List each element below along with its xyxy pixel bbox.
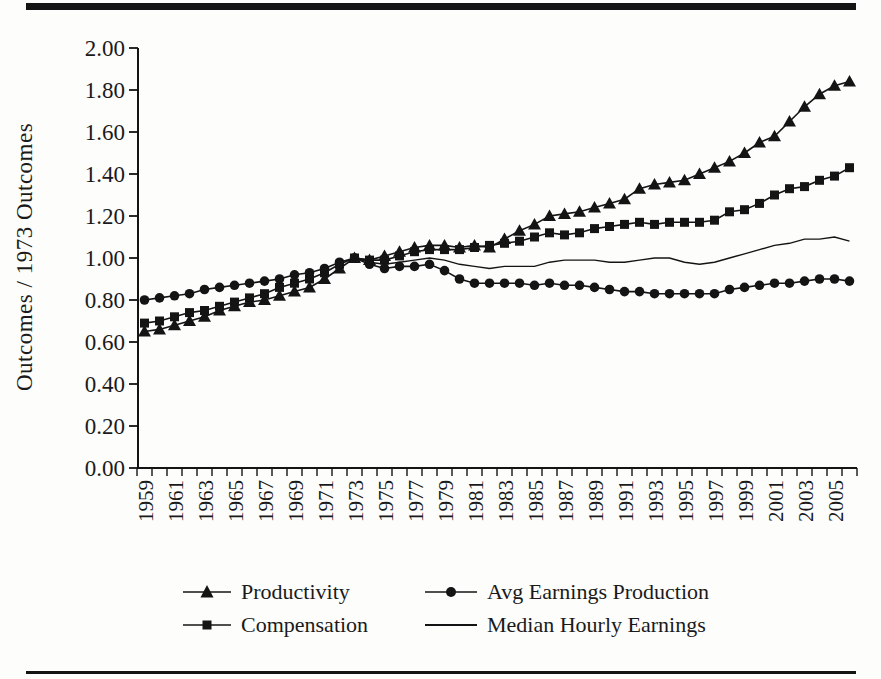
x-tick-label: 1971 [314,480,338,522]
line-marker-icon [425,617,477,633]
legend-label-productivity: Productivity [241,579,350,605]
y-tick-label: 1.80 [85,78,125,103]
y-tick-label: 0.00 [85,456,125,481]
y-tick-label: 0.20 [85,414,125,439]
legend-item-avg-earnings: Avg Earnings Production [425,579,709,605]
legend-item-median-hourly: Median Hourly Earnings [425,612,709,638]
y-tick-label: 0.60 [85,330,125,355]
legend-item-compensation: Compensation [183,612,425,638]
x-tick-label: 1997 [704,480,728,522]
x-tick-label: 1989 [584,480,608,522]
legend: Productivity Avg Earnings Production Com… [183,579,709,638]
legend-label-median-hourly: Median Hourly Earnings [487,612,706,638]
x-tick-label: 1983 [494,480,518,522]
x-tick-label: 1963 [194,480,218,522]
square-marker-icon [183,617,231,633]
y-tick-label: 1.40 [85,162,125,187]
y-tick-label: 1.60 [85,120,125,145]
x-tick-label: 1967 [254,480,278,522]
circle-marker-icon [425,584,477,600]
legend-item-productivity: Productivity [183,579,425,605]
figure-page: Outcomes / 1973 Outcomes 0.000.200.400.6… [0,0,881,679]
x-tick-label: 2005 [824,480,848,522]
y-tick-label: 0.80 [85,288,125,313]
legend-label-avg-earnings: Avg Earnings Production [487,579,709,605]
x-tick-label: 1987 [554,480,578,522]
x-tick-label: 1969 [284,480,308,522]
x-tick-label: 1959 [134,480,158,522]
y-tick-label: 0.40 [85,372,125,397]
x-tick-label: 1975 [374,480,398,522]
line-chart: 0.000.200.400.600.801.001.201.401.601.80… [0,0,881,572]
x-axis-ticks: 1959196119631965196719691971197319751977… [134,468,858,522]
x-tick-label: 1995 [674,480,698,522]
triangle-marker-icon [183,584,231,600]
y-tick-label: 1.20 [85,204,125,229]
y-tick-label: 1.00 [85,246,125,271]
y-axis-ticks: 0.000.200.400.600.801.001.201.401.601.80… [85,36,138,481]
x-tick-label: 1985 [524,480,548,522]
x-tick-label: 1965 [224,480,248,522]
bottom-rule [26,671,856,674]
y-tick-label: 2.00 [85,36,125,61]
x-tick-label: 1979 [434,480,458,522]
axes [138,48,857,468]
x-tick-label: 1991 [614,480,638,522]
x-tick-label: 2001 [764,480,788,522]
x-tick-label: 2003 [794,480,818,522]
x-tick-label: 1973 [344,480,368,522]
x-tick-label: 1981 [464,480,488,522]
x-tick-label: 1999 [734,480,758,522]
x-tick-label: 1961 [164,480,188,522]
x-tick-label: 1977 [404,480,428,522]
legend-label-compensation: Compensation [241,612,368,638]
x-tick-label: 1993 [644,480,668,522]
